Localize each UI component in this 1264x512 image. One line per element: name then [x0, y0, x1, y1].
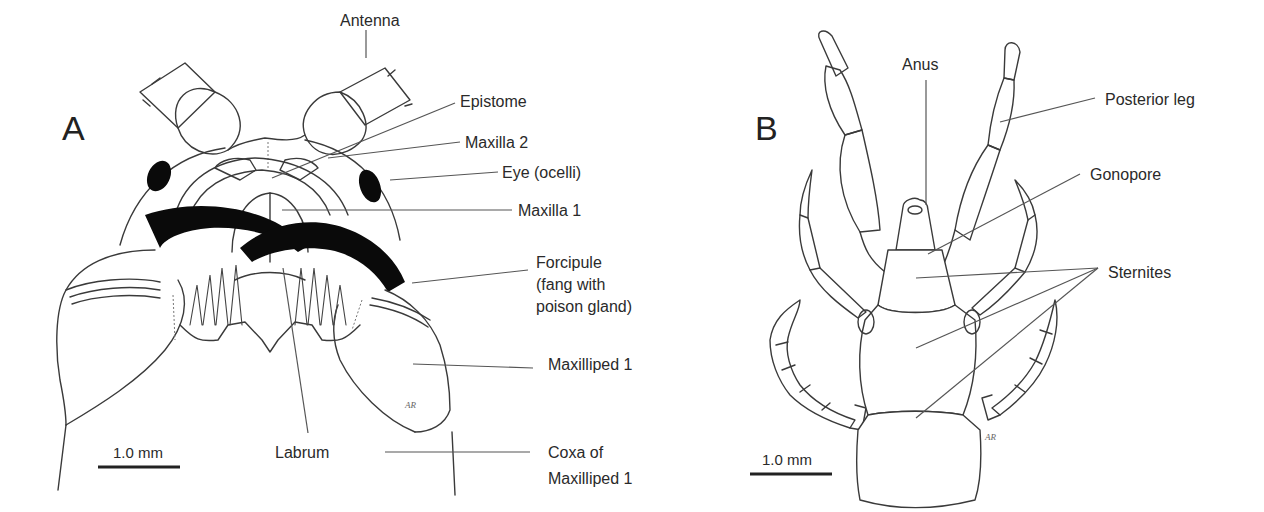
side-leg-left-lower	[770, 300, 866, 430]
antenna-right-drawing	[303, 68, 412, 154]
side-leg-left-upper	[799, 170, 866, 318]
label-forcipule-1: Forcipule	[536, 254, 602, 271]
artist-signature-b: AR	[984, 432, 996, 442]
label-eye: Eye (ocelli)	[502, 164, 581, 181]
leader-maxilliped1	[413, 364, 533, 368]
sternite-3	[857, 411, 981, 507]
side-leg-right-upper	[972, 180, 1037, 315]
maxilliped1-left-bands	[66, 279, 160, 304]
maxilliped1-left-outer	[57, 250, 155, 425]
label-epistome: Epistome	[460, 93, 527, 110]
labrum-margin	[180, 322, 360, 352]
labrum-teeth-right	[295, 268, 346, 325]
label-forcipule-3: poison gland)	[536, 298, 632, 315]
leader-posterior-leg	[1000, 98, 1095, 122]
artist-signature: AR	[404, 400, 416, 410]
label-antenna: Antenna	[340, 12, 400, 29]
label-gonopore: Gonopore	[1090, 166, 1161, 183]
label-sternites: Sternites	[1108, 264, 1171, 281]
posterior-leg-left-drawing	[819, 31, 885, 272]
leader-gonopore	[928, 174, 1080, 254]
leader-eye	[390, 172, 498, 180]
sternite-1	[878, 250, 955, 313]
head-front-margin	[228, 135, 305, 150]
label-coxa-2: Maxilliped 1	[548, 470, 633, 487]
panel-b-letter: B	[755, 109, 778, 147]
label-maxilliped1: Maxilliped 1	[548, 356, 633, 373]
leader-forcipule	[412, 270, 528, 283]
label-maxilla2: Maxilla 2	[465, 134, 528, 151]
scale-bar-label-b: 1.0 mm	[762, 451, 812, 468]
maxilliped1-right-bands	[370, 298, 430, 327]
sternite-2	[860, 305, 976, 415]
coxa-left-edge	[58, 425, 66, 490]
eye-right-drawing	[355, 167, 385, 206]
maxilliped1-left-inner	[66, 280, 184, 425]
label-maxilla1: Maxilla 1	[518, 202, 581, 219]
coxa-right-edge	[452, 432, 455, 495]
forcipule-fang-right	[240, 222, 405, 292]
eye-left-drawing	[142, 157, 175, 195]
labrum-upper-line	[235, 273, 305, 281]
label-anus: Anus	[902, 56, 938, 73]
side-leg-right-lower	[982, 300, 1057, 420]
panel-a: A	[57, 12, 633, 495]
leader-labrum	[283, 268, 308, 433]
labrum-teeth-left	[190, 265, 242, 325]
label-posterior-leg: Posterior leg	[1105, 91, 1195, 108]
label-forcipule-2: (fang with	[536, 276, 605, 293]
panel-b: B	[750, 31, 1195, 507]
scale-bar-label-a: 1.0 mm	[113, 444, 163, 461]
label-labrum: Labrum	[275, 444, 329, 461]
label-coxa-1: Coxa of	[548, 444, 604, 461]
panel-a-letter: A	[62, 109, 85, 147]
antenna-left-drawing	[140, 63, 240, 154]
leader-maxilla2	[328, 142, 460, 158]
centipede-anatomy-figure: A	[0, 0, 1264, 512]
posterior-leg-right-drawing	[935, 43, 1020, 280]
